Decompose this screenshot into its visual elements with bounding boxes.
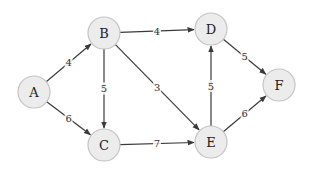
node-E: E	[195, 126, 227, 158]
node-label: B	[99, 26, 109, 41]
edge-weight-B-D: 4	[154, 26, 160, 37]
edge-weight-A-C: 6	[65, 113, 71, 124]
edge-weight-C-E: 7	[154, 138, 160, 149]
node-A: A	[18, 76, 50, 108]
edge-weight-A-B: 4	[65, 57, 71, 68]
node-B: B	[88, 17, 120, 49]
edge-weight-E-D: 5	[208, 81, 214, 92]
edge-weight-D-F: 5	[241, 51, 247, 62]
node-F: F	[263, 69, 295, 101]
node-C: C	[88, 129, 120, 161]
edge-weight-B-C: 5	[101, 83, 107, 94]
node-label: A	[28, 85, 39, 100]
node-label: F	[274, 78, 283, 93]
edge-weight-E-F: 6	[241, 108, 247, 119]
graph-canvas: 464537556 ABCDEF	[0, 0, 311, 172]
node-label: E	[206, 135, 216, 150]
node-label: D	[206, 22, 216, 37]
node-D: D	[195, 13, 227, 45]
edge-weight-B-E: 3	[154, 82, 160, 93]
node-label: C	[99, 138, 109, 153]
